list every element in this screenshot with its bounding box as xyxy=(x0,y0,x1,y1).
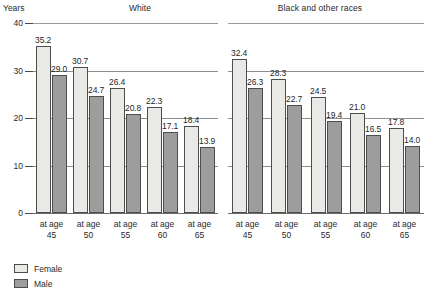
y-axis-tick-20 xyxy=(25,118,33,119)
bar-black-female-2 xyxy=(311,97,326,213)
x-axis-category-label: at age60 xyxy=(346,219,385,241)
category-label-line1: at age xyxy=(385,219,424,230)
bar-white-male-3 xyxy=(163,132,178,213)
bar-value-label: 26.3 xyxy=(247,77,263,87)
bar-value-label: 22.3 xyxy=(146,96,162,106)
bar-white-male-0 xyxy=(52,75,67,213)
bar-value-label: 24.7 xyxy=(88,85,104,95)
category-label-line2: 50 xyxy=(70,230,107,241)
legend-swatch-female-icon xyxy=(14,264,28,273)
chart-container: Years White Black and other races 010203… xyxy=(0,0,440,296)
bar-black-female-1 xyxy=(271,79,286,213)
gridline-30 xyxy=(228,71,424,72)
bar-value-label: 29.0 xyxy=(51,64,67,74)
bar-white-male-4 xyxy=(200,147,215,213)
panel-title-white: White xyxy=(60,3,220,13)
x-axis-category-label: at age45 xyxy=(228,219,267,241)
y-axis-label-0: 0 xyxy=(1,208,23,218)
bar-white-female-4 xyxy=(184,126,199,213)
gridline-0 xyxy=(228,213,424,214)
bar-black-male-0 xyxy=(248,88,263,213)
category-label-line1: at age xyxy=(181,219,218,230)
chart-legend: Female Male xyxy=(14,262,62,292)
category-label-line2: 45 xyxy=(33,230,70,241)
y-axis-tick-40 xyxy=(25,23,33,24)
y-axis-label-40: 40 xyxy=(1,18,23,28)
category-label-line2: 60 xyxy=(144,230,181,241)
x-axis-category-label: at age65 xyxy=(385,219,424,241)
gridline-40 xyxy=(33,23,218,24)
x-axis-category-label: at age60 xyxy=(144,219,181,241)
category-label-line2: 65 xyxy=(181,230,218,241)
y-axis-label-20: 20 xyxy=(1,113,23,123)
bar-black-female-0 xyxy=(232,59,247,213)
legend-label-male: Male xyxy=(34,279,52,289)
legend-label-female: Female xyxy=(34,264,62,274)
category-label-line1: at age xyxy=(306,219,345,230)
x-axis-category-label: at age55 xyxy=(107,219,144,241)
bar-white-female-1 xyxy=(73,67,88,213)
bar-white-female-2 xyxy=(110,88,125,213)
y-axis-tick-30 xyxy=(25,71,33,72)
gridline-0 xyxy=(33,213,218,214)
y-axis-label-30: 30 xyxy=(1,66,23,76)
panel-title-black: Black and other races xyxy=(240,3,400,13)
bar-value-label: 35.2 xyxy=(35,35,51,45)
category-label-line1: at age xyxy=(228,219,267,230)
category-label-line1: at age xyxy=(346,219,385,230)
bar-value-label: 19.4 xyxy=(326,110,342,120)
legend-swatch-male-icon xyxy=(14,279,28,288)
category-label-line2: 65 xyxy=(385,230,424,241)
bar-white-female-3 xyxy=(147,107,162,213)
bar-white-male-2 xyxy=(126,114,141,213)
bar-value-label: 18.4 xyxy=(183,115,199,125)
bar-value-label: 21.0 xyxy=(349,102,365,112)
y-axis-tick-0 xyxy=(25,213,33,214)
x-axis-category-label: at age50 xyxy=(267,219,306,241)
bar-white-female-0 xyxy=(36,46,51,213)
category-label-line1: at age xyxy=(107,219,144,230)
bar-value-label: 16.5 xyxy=(365,124,381,134)
bar-value-label: 22.7 xyxy=(286,94,302,104)
bar-black-male-3 xyxy=(366,135,381,213)
bar-value-label: 13.9 xyxy=(199,136,215,146)
bar-black-female-3 xyxy=(350,113,365,213)
y-axis-tick-10 xyxy=(25,166,33,167)
bar-value-label: 24.5 xyxy=(310,86,326,96)
category-label-line2: 60 xyxy=(346,230,385,241)
gridline-40 xyxy=(228,23,424,24)
category-label-line2: 55 xyxy=(306,230,345,241)
y-axis-unit-label: Years xyxy=(3,3,24,13)
category-label-line2: 50 xyxy=(267,230,306,241)
bar-value-label: 26.4 xyxy=(109,77,125,87)
bar-value-label: 17.8 xyxy=(388,117,404,127)
x-axis-category-label: at age50 xyxy=(70,219,107,241)
x-axis-category-label: at age65 xyxy=(181,219,218,241)
category-label-line1: at age xyxy=(144,219,181,230)
bar-value-label: 30.7 xyxy=(72,56,88,66)
legend-item-male: Male xyxy=(14,277,62,290)
bar-black-male-2 xyxy=(327,121,342,213)
bar-white-male-1 xyxy=(89,96,104,213)
category-label-line1: at age xyxy=(70,219,107,230)
category-label-line2: 45 xyxy=(228,230,267,241)
legend-item-female: Female xyxy=(14,262,62,275)
bar-black-male-4 xyxy=(405,146,420,213)
bar-black-male-1 xyxy=(287,105,302,213)
bar-value-label: 32.4 xyxy=(231,48,247,58)
y-axis-label-10: 10 xyxy=(1,161,23,171)
category-label-line1: at age xyxy=(267,219,306,230)
bar-value-label: 14.0 xyxy=(404,135,420,145)
bar-value-label: 20.8 xyxy=(125,103,141,113)
category-label-line1: at age xyxy=(33,219,70,230)
bar-value-label: 28.3 xyxy=(270,68,286,78)
category-label-line2: 55 xyxy=(107,230,144,241)
bar-black-female-4 xyxy=(389,128,404,213)
bar-value-label: 17.1 xyxy=(162,121,178,131)
x-axis-category-label: at age45 xyxy=(33,219,70,241)
x-axis-category-label: at age55 xyxy=(306,219,345,241)
